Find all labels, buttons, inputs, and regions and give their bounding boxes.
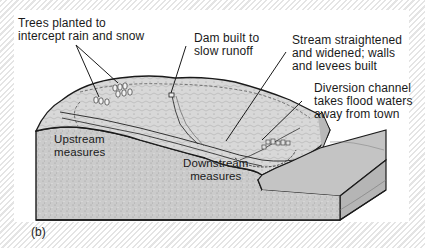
callout-dam: Dam built to slow runoff [194, 32, 259, 58]
callout-diversion: Diversion channel takes flood waters awa… [314, 82, 413, 121]
region-label-upstream: Upstream measures [54, 133, 105, 158]
region-label-downstream: Downstream measures [183, 157, 249, 182]
callout-trees: Trees planted to intercept rain and snow [18, 17, 144, 43]
callout-stream: Stream straightened and widened; walls a… [292, 34, 402, 73]
dam-icon [169, 93, 174, 97]
figure-panel-label: (b) [31, 225, 46, 239]
